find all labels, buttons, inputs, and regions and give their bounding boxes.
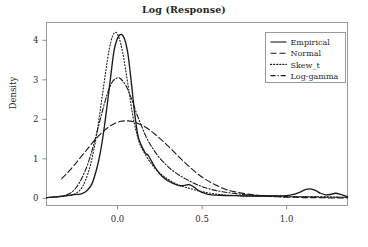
density-curve-log-gamma: [47, 78, 348, 198]
legend-label-empirical: Empirical: [291, 38, 331, 47]
x-tick-label: 1.0: [280, 214, 294, 224]
legend-label-normal: Normal: [291, 49, 322, 58]
y-tick-label: 3: [33, 75, 38, 85]
legend-label-log-gamma: Log-gamma: [291, 72, 339, 81]
y-tick-label: 0: [33, 193, 38, 203]
plot-canvas: 0.00.51.0 01234 EmpiricalNormalSkew_tLog…: [0, 0, 368, 247]
x-tick-label: 0.0: [111, 214, 125, 224]
x-tick-label: 0.5: [195, 214, 209, 224]
x-axis-ticks: 0.00.51.0: [111, 206, 294, 224]
y-tick-label: 1: [33, 154, 38, 164]
legend-label-skew-t: Skew_t: [291, 61, 321, 70]
legend[interactable]: EmpiricalNormalSkew_tLog-gamma: [266, 33, 346, 83]
y-axis-ticks: 01234: [33, 35, 46, 203]
density-curve-normal: [62, 121, 348, 198]
y-tick-label: 4: [33, 35, 38, 45]
y-tick-label: 2: [33, 114, 38, 124]
density-plot-figure: Log (Response) Density 0.00.51.0 01234 E…: [0, 0, 368, 247]
